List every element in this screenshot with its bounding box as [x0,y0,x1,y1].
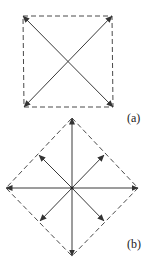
center-point [71,187,74,190]
panel-b-label: (b) [127,238,141,250]
panel-a [23,16,113,107]
diagonal-arrow-tl-br [23,16,113,107]
arrow-up-left [39,155,72,188]
panel-b [6,118,138,256]
arrow-up-right [72,155,104,188]
arrow-down-right [72,188,104,221]
vector-diagram [0,0,153,268]
panel-a-label: (a) [127,112,140,124]
arrow-down-left [40,188,72,221]
